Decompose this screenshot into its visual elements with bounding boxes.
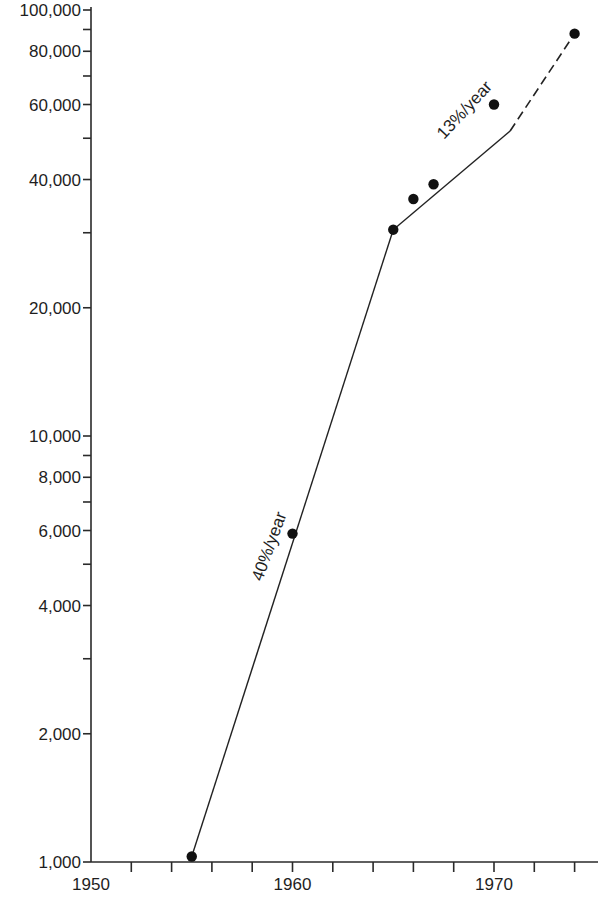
annotation-40-percent: 40%/year [248,509,291,583]
growth-chart: 1,0002,0004,0006,0008,00010,00020,00040,… [0,0,610,911]
annotations: 40%/year 13%/year [248,77,496,583]
x-tick-label: 1960 [274,875,312,894]
y-tick-label: 2,000 [38,725,81,744]
y-tick-label: 1,000 [38,853,81,872]
data-point [187,851,197,861]
data-point [287,528,297,538]
x-axis: 195019601970 [72,862,598,894]
y-tick-label: 10,000 [29,427,81,446]
y-tick-label: 100,000 [20,1,81,20]
y-tick-label: 80,000 [29,42,81,61]
trend-line-dashed [510,34,574,131]
x-tick-label: 1970 [475,875,513,894]
x-tick-label: 1950 [72,875,110,894]
y-tick-label: 6,000 [38,522,81,541]
data-point [489,99,499,109]
data-point [388,224,398,234]
data-point [408,194,418,204]
y-tick-label: 40,000 [29,171,81,190]
data-point [428,179,438,189]
trend-lines [192,34,575,857]
y-tick-label: 8,000 [38,468,81,487]
trend-line [192,230,394,857]
data-points [187,28,580,861]
y-tick-label: 4,000 [38,597,81,616]
y-tick-label: 60,000 [29,96,81,115]
trend-line [393,131,510,230]
annotation-13-percent: 13%/year [433,77,496,143]
y-axis: 1,0002,0004,0006,0008,00010,00020,00040,… [20,1,91,872]
y-tick-label: 20,000 [29,299,81,318]
data-point [569,28,579,38]
